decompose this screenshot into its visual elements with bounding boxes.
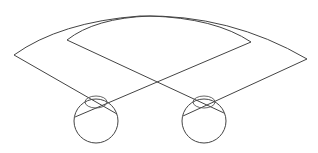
right-eye	[182, 96, 226, 143]
diagram-svg	[0, 0, 318, 153]
right-eyeball	[182, 99, 226, 143]
binocular-field-diagram	[0, 0, 318, 153]
left-eyeball	[74, 99, 118, 143]
outer-field-arc	[14, 16, 307, 59]
inner-right-sightline	[75, 42, 251, 117]
inner-left-sightline	[67, 40, 224, 113]
left-eye	[74, 96, 118, 143]
inner-field-arc	[67, 16, 251, 42]
